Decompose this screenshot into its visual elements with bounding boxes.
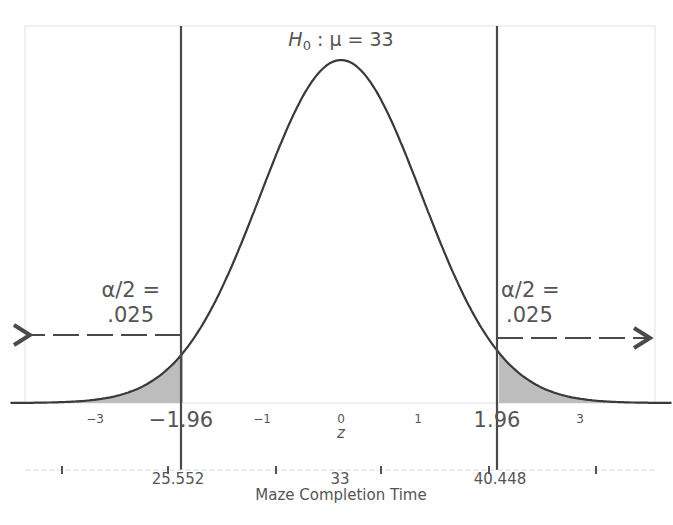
left-alpha-label-line1: α/2 = (101, 278, 160, 302)
plot-frame (25, 26, 655, 403)
right-alpha-label-line1: α/2 = (501, 278, 560, 302)
z-tick-label-1: 1 (414, 412, 422, 426)
left-alpha-label-line2: .025 (107, 303, 154, 327)
critical-z-label-left: −1.96 (149, 408, 213, 432)
right-alpha-label-line2: .025 (506, 303, 553, 327)
raw-critical-label-left: 25.552 (152, 470, 205, 488)
normal-curve (11, 60, 672, 403)
z-tick-label-neg3: −3 (86, 412, 104, 426)
normal-distribution-chart: H0 : μ = 33 α/2 = .025 α/2 = .025 −3 −1 … (0, 0, 673, 525)
z-tick-label-3: 3 (576, 412, 584, 426)
raw-axis-label: Maze Completion Time (255, 486, 426, 504)
critical-z-label-right: 1.96 (474, 408, 521, 432)
z-tick-label-neg1: −1 (253, 412, 271, 426)
hypothesis-title: H0 : μ = 33 (288, 28, 393, 53)
z-axis-label: z (336, 424, 346, 442)
raw-critical-label-right: 40.448 (474, 470, 527, 488)
